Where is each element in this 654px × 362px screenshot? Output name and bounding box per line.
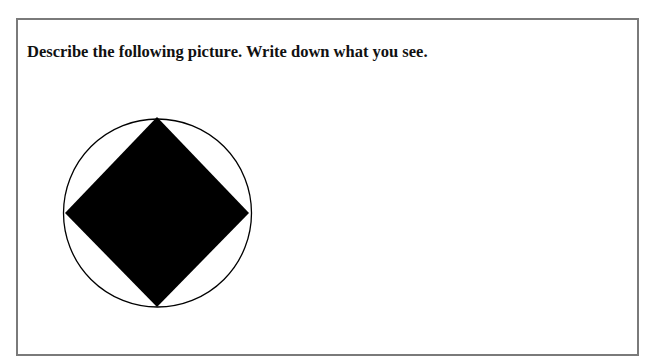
question-frame: Describe the following picture. Write do… [16,18,639,356]
question-prompt: Describe the following picture. Write do… [27,42,428,62]
circle-diamond-figure [62,114,256,312]
figure [62,114,256,312]
